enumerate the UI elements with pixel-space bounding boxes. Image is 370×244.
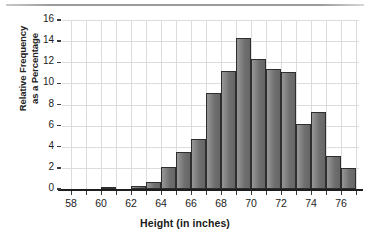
histogram-bar — [206, 93, 221, 189]
histogram-bar — [326, 156, 341, 189]
histogram-bar — [266, 69, 281, 189]
x-axis-tick-mark — [161, 191, 162, 196]
gridline-vertical — [86, 20, 87, 189]
x-axis-tick-label: 64 — [146, 197, 176, 209]
histogram-bar — [296, 124, 311, 189]
x-axis-tick-mark — [116, 191, 117, 196]
y-axis-tick-mark — [57, 40, 61, 41]
gridline-vertical — [116, 20, 117, 189]
x-axis-tick-label: 70 — [236, 197, 266, 209]
gridline-vertical — [131, 20, 132, 189]
histogram-bar — [191, 139, 206, 189]
x-axis-tick-label: 66 — [176, 197, 206, 209]
x-axis-tick-label: 60 — [86, 197, 116, 209]
y-axis-tick-mark — [57, 125, 61, 126]
x-axis-tick-mark — [266, 191, 267, 196]
histogram-bar — [101, 187, 116, 189]
y-axis-tick-label: 0 — [34, 182, 54, 193]
y-axis-tick-label: 6 — [34, 119, 54, 130]
x-axis-tick-mark — [131, 191, 132, 196]
x-axis-tick-mark — [146, 191, 147, 196]
histogram-bar — [311, 112, 326, 189]
y-axis-tick-label: 12 — [34, 55, 54, 66]
x-axis-tick-mark — [176, 191, 177, 196]
x-axis-tick-mark — [311, 191, 312, 196]
y-axis-tick-mark — [57, 19, 61, 20]
y-axis-tick-label: 4 — [34, 140, 54, 151]
x-axis-tick-label: 76 — [326, 197, 356, 209]
y-axis-tick-label: 16 — [34, 13, 54, 24]
y-axis-tick-mark — [57, 83, 61, 84]
x-axis-tick-mark — [221, 191, 222, 196]
gridline-vertical — [71, 20, 72, 189]
y-axis-tick-mark — [57, 188, 61, 189]
gridline-vertical — [101, 20, 102, 189]
x-axis-tick-label: 68 — [206, 197, 236, 209]
x-axis-tick-mark — [341, 191, 342, 196]
y-axis-tick-label: 10 — [34, 76, 54, 87]
histogram-bar — [176, 152, 191, 189]
histogram-bar — [281, 72, 296, 189]
gridline-vertical — [356, 20, 357, 189]
histogram-bar — [236, 38, 251, 189]
x-axis-tick-label: 58 — [56, 197, 86, 209]
x-axis-tick-mark — [206, 191, 207, 196]
x-axis-tick-mark — [101, 191, 102, 196]
histogram-bar — [221, 71, 236, 189]
x-axis-tick-mark — [356, 191, 357, 196]
gridline-vertical — [341, 20, 342, 189]
x-axis-tick-mark — [86, 191, 87, 196]
plot-area — [62, 20, 359, 189]
gridline-vertical — [146, 20, 147, 189]
histogram-bar — [341, 168, 356, 189]
x-axis-tick-mark — [251, 191, 252, 196]
x-axis-title: Height (in inches) — [0, 217, 370, 229]
y-axis-tick-mark — [57, 104, 61, 105]
x-axis-tick-mark — [191, 191, 192, 196]
histogram-bar — [161, 167, 176, 189]
gridline-horizontal — [62, 62, 359, 63]
x-axis-tick-mark — [71, 191, 72, 196]
gridline-vertical — [161, 20, 162, 189]
histogram-figure: Relative Frequency as a Percentage 02468… — [0, 0, 370, 244]
y-axis-tick-labels: 0246810121416 — [30, 0, 54, 244]
y-axis-tick-mark — [57, 146, 61, 147]
x-axis-tick-mark — [296, 191, 297, 196]
gridline-horizontal — [62, 83, 359, 84]
y-axis-tick-mark — [57, 62, 61, 63]
y-axis-title-line-1: Relative Frequency — [17, 0, 29, 144]
x-axis-tick-mark — [326, 191, 327, 196]
x-axis-tick-label: 72 — [266, 197, 296, 209]
gridline-horizontal — [62, 20, 359, 21]
gridline-horizontal — [62, 41, 359, 42]
y-axis-tick-label: 8 — [34, 98, 54, 109]
x-axis-tick-mark — [236, 191, 237, 196]
histogram-bar — [131, 186, 146, 189]
y-axis-tick-label: 2 — [34, 161, 54, 172]
y-axis-tick-label: 14 — [34, 34, 54, 45]
x-axis-tick-label: 62 — [116, 197, 146, 209]
x-axis-tick-mark — [281, 191, 282, 196]
histogram-bar — [146, 182, 161, 189]
histogram-bar — [251, 59, 266, 189]
y-axis-tick-mark — [57, 167, 61, 168]
x-axis-tick-label: 74 — [296, 197, 326, 209]
